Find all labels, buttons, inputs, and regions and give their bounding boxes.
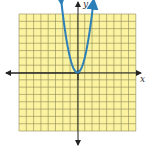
x-axis-label: x (140, 74, 145, 84)
y-axis-label: y (83, 0, 88, 9)
coordinate-graph (0, 0, 147, 147)
